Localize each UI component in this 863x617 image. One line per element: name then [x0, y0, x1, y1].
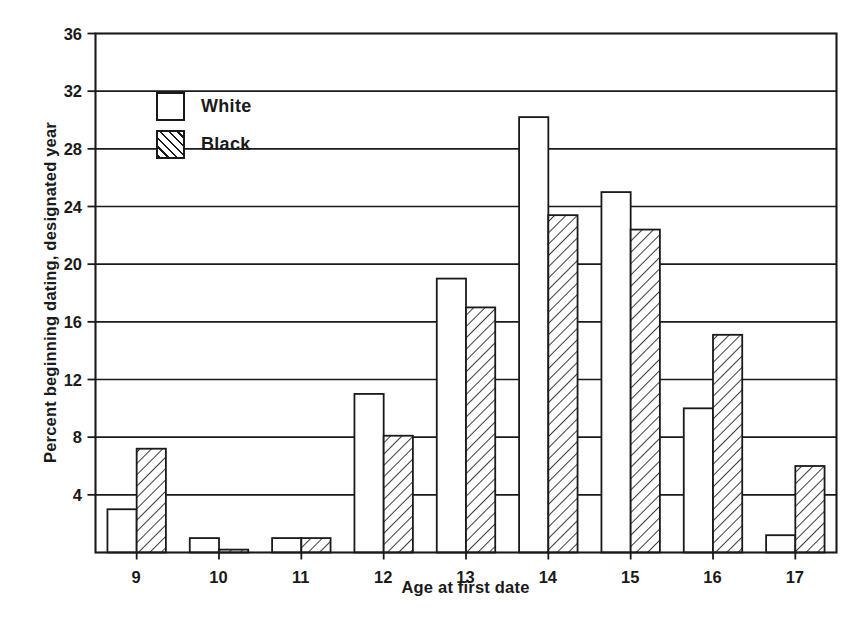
bar-black-age-14: [548, 215, 577, 552]
bar-white-age-16: [684, 408, 713, 552]
plot-area: [0, 0, 863, 617]
bar-black-age-16: [713, 335, 742, 553]
x-axis-title: Age at first date: [95, 578, 836, 597]
bar-black-age-13: [466, 307, 495, 552]
bar-white-age-9: [107, 509, 136, 552]
legend-label-black: Black: [201, 134, 251, 155]
bar-white-age-11: [272, 538, 301, 552]
y-tick-label: 16: [40, 312, 82, 331]
bar-chart: Percent beginning dating, designated yea…: [0, 0, 863, 617]
bar-black-age-11: [301, 538, 330, 552]
legend-item-white: White: [156, 87, 252, 125]
bar-white-age-14: [519, 117, 548, 552]
empty-square-swatch-icon: [156, 92, 185, 121]
bar-white-age-17: [766, 535, 795, 552]
y-tick-label: 4: [40, 485, 82, 504]
hatched-square-swatch-icon: [156, 130, 185, 159]
y-axis-tick-labels: 4812162024283236: [40, 0, 82, 617]
legend-label-white: White: [201, 96, 252, 117]
bar-white-age-15: [601, 192, 630, 552]
y-tick-label: 8: [40, 428, 82, 447]
y-tick-label: 32: [40, 82, 82, 101]
bar-white-age-13: [437, 279, 466, 553]
y-tick-label: 12: [40, 370, 82, 389]
legend-item-black: Black: [156, 125, 252, 163]
y-tick-label: 36: [40, 24, 82, 43]
y-tick-label: 20: [40, 255, 82, 274]
legend: White Black: [156, 87, 252, 163]
bar-white-age-10: [190, 538, 219, 552]
bars: [107, 117, 824, 552]
bar-black-age-9: [137, 449, 166, 553]
bar-black-age-15: [631, 230, 660, 553]
y-tick-label: 28: [40, 139, 82, 158]
bar-white-age-12: [354, 394, 383, 553]
bar-black-age-12: [384, 436, 413, 553]
bar-black-age-17: [795, 466, 824, 553]
y-tick-label: 24: [40, 197, 82, 216]
